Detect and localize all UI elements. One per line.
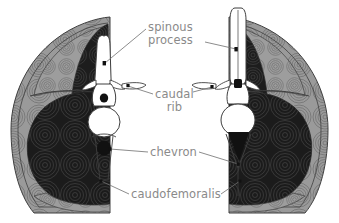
dot-caudal-right [210,85,213,88]
dot-caudofem-right [238,180,241,183]
right-neural-canal [234,79,242,88]
left-cross-section [11,17,146,213]
right-prezygapophysis [215,80,230,89]
dot-chevron-right [237,163,240,166]
dot-caudal-left [126,84,129,87]
right-centrum [221,104,255,136]
dot-chevron-left [108,148,111,151]
label-caudofemoralis-line1: caudofemoralis [131,188,221,201]
right-cross-section [192,8,328,213]
dot-spinous-right [234,47,237,51]
left-neural-canal [100,93,108,102]
leader-dots [99,47,241,183]
label-caudal-rib: caudal rib [155,88,194,113]
left-centrum [88,107,120,137]
label-chevron: chevron [150,146,197,159]
leader-chevron-left [110,149,148,152]
label-chevron-line1: chevron [150,146,197,159]
dot-spinous-left [103,61,106,65]
label-caudal-rib-line2: rib [155,101,194,114]
leader-spinous-left [105,29,146,63]
label-caudal-rib-line1: caudal [155,88,194,101]
label-caudofemoralis: caudofemoralis [131,188,221,201]
dot-caudofem-left [99,180,102,183]
label-spinous-process: spinous process [148,21,193,46]
label-spinous-process-line2: process [148,34,193,47]
label-spinous-process-line1: spinous [148,21,193,34]
left-spinous-process [95,35,111,86]
